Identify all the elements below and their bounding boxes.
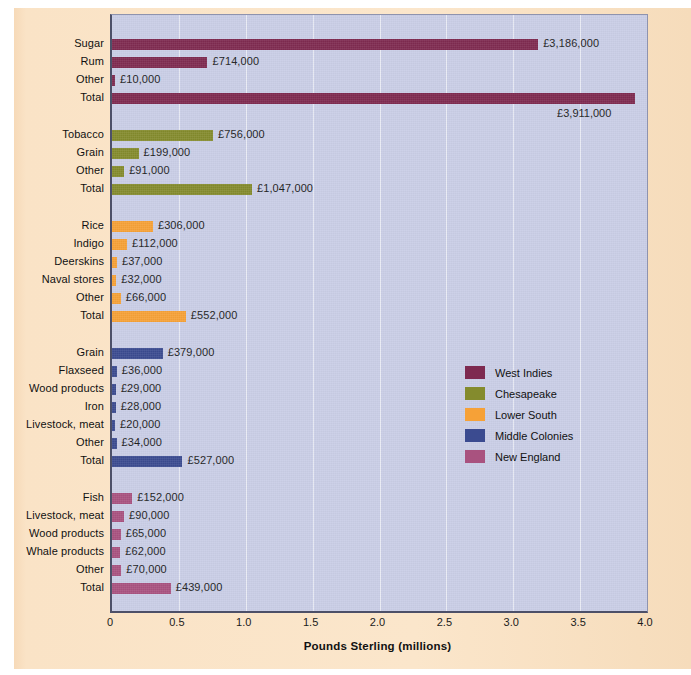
bar-middle-colonies-wood-products (112, 384, 116, 395)
bar-row: £3,186,000 (112, 39, 647, 50)
bar-row: £37,000 (112, 257, 647, 268)
bar-middle-colonies-iron (112, 402, 116, 413)
category-label: Grain (77, 146, 104, 158)
category-label: Wood products (29, 382, 104, 394)
bar-lower-south-rice (112, 221, 153, 232)
bar-new-england-livestock-meat (112, 511, 124, 522)
bar-middle-colonies-total (112, 456, 182, 467)
category-label: Other (76, 291, 104, 303)
x-tick-label: 1.0 (236, 616, 251, 628)
bar-row: £90,000 (112, 511, 647, 522)
bar-lower-south-total (112, 311, 186, 322)
bar-value-label: £62,000 (125, 545, 165, 557)
bar-new-england-wood-products (112, 529, 121, 540)
category-label: Wood products (29, 527, 104, 539)
bar-row: £714,000 (112, 57, 647, 68)
bar-value-label: £37,000 (122, 255, 162, 267)
bar-row: £65,000 (112, 529, 647, 540)
bar-middle-colonies-grain (112, 348, 163, 359)
bar-west-indies-sugar (112, 39, 538, 50)
category-label: Tobacco (62, 128, 104, 140)
legend-item[interactable]: Chesapeake (465, 383, 573, 404)
category-label: Other (76, 436, 104, 448)
bar-lower-south-indigo (112, 239, 127, 250)
bar-row: £66,000 (112, 293, 647, 304)
legend-swatch-icon (465, 387, 485, 400)
bar-row: £1,047,000 (112, 184, 647, 195)
bar-row: £306,000 (112, 221, 647, 232)
x-tick-label: 4.0 (637, 616, 652, 628)
bar-lower-south-naval-stores (112, 275, 116, 286)
bar-value-label: £1,047,000 (257, 182, 313, 194)
plot-area: £3,186,000£714,000£10,000£3,911,000£756,… (110, 14, 648, 613)
bar-value-label: £552,000 (191, 309, 238, 321)
category-label: Deerskins (54, 255, 104, 267)
bar-row: £439,000 (112, 583, 647, 594)
bar-middle-colonies-other (112, 438, 117, 449)
bar-row: £199,000 (112, 148, 647, 159)
bar-new-england-fish (112, 493, 132, 504)
page-edge-top (0, 0, 691, 8)
bar-new-england-whale-products (112, 547, 120, 558)
category-label: Indigo (73, 237, 104, 249)
bar-value-label: £36,000 (122, 364, 162, 376)
legend-label: West Indies (495, 367, 552, 379)
bar-new-england-total (112, 583, 171, 594)
category-label: Livestock, meat (26, 509, 104, 521)
bar-value-label: £714,000 (212, 55, 259, 67)
bar-row: £62,000 (112, 547, 647, 558)
bar-value-label: £20,000 (120, 418, 160, 430)
category-label: Other (76, 563, 104, 575)
bar-row: £552,000 (112, 311, 647, 322)
x-tick-label: 1.5 (303, 616, 318, 628)
category-label: Whale products (26, 545, 104, 557)
bar-value-label: £66,000 (126, 291, 166, 303)
bar-west-indies-other (112, 75, 115, 86)
bar-row: £3,911,000 (112, 93, 647, 104)
legend-swatch-icon (465, 450, 485, 463)
bar-west-indies-total (112, 93, 635, 104)
category-label: Grain (77, 346, 104, 358)
bar-row: £10,000 (112, 75, 647, 86)
bar-value-label: £199,000 (144, 146, 191, 158)
x-tick-label: 3.5 (570, 616, 585, 628)
bar-value-label: £70,000 (126, 563, 166, 575)
category-label: Sugar (74, 37, 104, 49)
legend-item[interactable]: West Indies (465, 362, 573, 383)
legend-item[interactable]: New England (465, 446, 573, 467)
bar-value-label: £3,186,000 (543, 37, 599, 49)
bar-value-label: £379,000 (168, 346, 215, 358)
category-label: Other (76, 164, 104, 176)
legend-item[interactable]: Lower South (465, 404, 573, 425)
bar-value-label: £32,000 (121, 273, 161, 285)
legend-label: Lower South (495, 409, 557, 421)
bar-value-label: £65,000 (126, 527, 166, 539)
bar-row: £112,000 (112, 239, 647, 250)
bar-value-label: £3,911,000 (557, 107, 611, 119)
bar-chesapeake-other (112, 166, 124, 177)
legend-label: Middle Colonies (495, 430, 573, 442)
legend-swatch-icon (465, 408, 485, 421)
bar-value-label: £91,000 (129, 164, 169, 176)
x-axis-title: Pounds Sterling (millions) (110, 640, 645, 652)
bar-row: £32,000 (112, 275, 647, 286)
category-label: Total (80, 581, 104, 593)
category-label: Rum (80, 55, 104, 67)
bar-value-label: £10,000 (120, 73, 160, 85)
legend-item[interactable]: Middle Colonies (465, 425, 573, 446)
x-tick-label: 2.5 (437, 616, 452, 628)
legend-label: New England (495, 451, 560, 463)
x-tick-label: 3.0 (504, 616, 519, 628)
legend-swatch-icon (465, 366, 485, 379)
bar-row: £379,000 (112, 348, 647, 359)
bar-value-label: £527,000 (187, 454, 234, 466)
bar-row: £152,000 (112, 493, 647, 504)
category-label: Total (80, 454, 104, 466)
bar-middle-colonies-livestock-meat (112, 420, 115, 431)
bar-west-indies-rum (112, 57, 207, 68)
chart-page: £3,186,000£714,000£10,000£3,911,000£756,… (0, 0, 691, 675)
page-edge-bottom (0, 669, 691, 675)
bar-value-label: £756,000 (218, 128, 265, 140)
bar-row: £756,000 (112, 130, 647, 141)
bar-value-label: £90,000 (129, 509, 169, 521)
